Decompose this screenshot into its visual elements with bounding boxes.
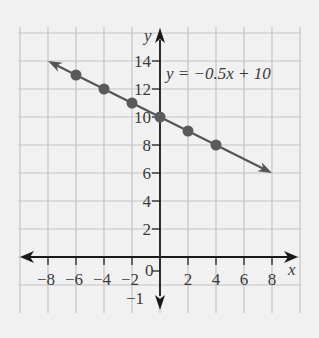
x-tick-label: −8 — [37, 270, 55, 289]
y-axis-label: y — [142, 26, 152, 45]
data-point — [211, 140, 222, 151]
y-tick-label: 6 — [143, 164, 152, 183]
y-tick-label: 4 — [143, 192, 152, 211]
x-axis-label: x — [287, 260, 296, 279]
data-point — [183, 126, 194, 137]
data-point — [127, 98, 138, 109]
tick-labels: −8−6−4−224682468101214 — [37, 52, 276, 289]
x-tick-label: −6 — [65, 270, 83, 289]
data-point — [99, 84, 110, 95]
y-tick-label: 14 — [134, 52, 152, 71]
x-tick-label: 8 — [268, 270, 277, 289]
y-tick-label: 8 — [143, 136, 152, 155]
data-point — [71, 70, 82, 81]
origin-label: 0 — [145, 261, 154, 280]
y-tick-label: 12 — [134, 80, 151, 99]
y-tick-label: 2 — [143, 220, 152, 239]
x-tick-label: 6 — [240, 270, 249, 289]
line-chart: −8−6−4−224682468101214 y = −0.5x + 10 x … — [0, 0, 319, 338]
x-tick-label: 2 — [184, 270, 193, 289]
data-point — [155, 112, 166, 123]
equation-label: y = −0.5x + 10 — [164, 64, 271, 83]
neg-one-label: −1 — [126, 289, 144, 308]
x-tick-label: 4 — [212, 270, 221, 289]
x-tick-label: −4 — [93, 270, 112, 289]
x-tick-label: −2 — [121, 270, 139, 289]
